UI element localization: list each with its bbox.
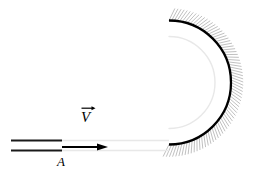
hatch-line — [231, 80, 243, 85]
hatch-line — [217, 121, 223, 133]
hatch-line — [204, 24, 216, 31]
flow-diagram-svg — [0, 0, 254, 176]
hatch-line — [182, 143, 185, 156]
hatch-line — [172, 9, 178, 21]
hatch-line — [223, 52, 236, 53]
velocity-arrow-head — [97, 144, 108, 151]
cross-section-label: A — [57, 155, 65, 168]
hatch-line — [208, 131, 211, 144]
hatch-line — [217, 41, 230, 44]
hatch-line — [220, 46, 233, 48]
channel-faint-continuation — [62, 141, 169, 151]
hatch-line — [231, 83, 243, 89]
hatch-line — [228, 64, 241, 66]
hatch-line — [219, 43, 232, 45]
hatch-line — [222, 49, 235, 50]
hatch-line — [202, 135, 203, 148]
hatch-line — [227, 62, 240, 64]
hatch-line — [206, 26, 218, 32]
hatch-line — [227, 59, 240, 60]
hatch-line — [185, 142, 187, 155]
hatch-line — [206, 132, 208, 145]
hatch-line — [216, 123, 221, 135]
figure-canvas: V A — [0, 0, 254, 176]
hatch-line — [210, 31, 222, 36]
velocity-label: V — [81, 110, 90, 125]
hatch-line — [169, 9, 175, 21]
bend-inner-wall — [169, 37, 215, 129]
hatch-line — [219, 119, 225, 131]
hatch-line — [199, 137, 200, 150]
hatch-line — [204, 134, 206, 147]
hatch-line — [231, 85, 243, 91]
hatch-line — [208, 29, 220, 35]
velocity-arrow — [62, 144, 108, 151]
hatch-line — [220, 117, 227, 129]
hatch-line — [191, 140, 192, 153]
hatch-line — [229, 67, 242, 70]
bend-outer-wall — [169, 21, 231, 145]
hatch-line — [188, 141, 190, 154]
